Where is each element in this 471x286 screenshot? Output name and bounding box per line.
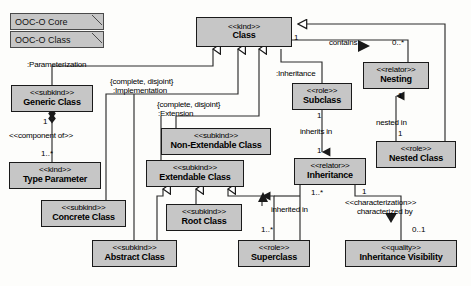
class-name: Inheritance Visibility [360,253,443,263]
label-extension: :Extension [158,109,193,118]
class-box-concrete-class[interactable]: <<subkind>> Concrete Class [41,200,126,227]
multiplicity-subclass: 1 [317,111,321,120]
multiplicity-inheritance-sub: 1 [317,146,321,155]
class-name: Extendable Class [159,173,230,183]
class-box-subclass[interactable]: <<role>> Subclass [292,83,352,110]
package-ooco-class: OOC-O Class [10,31,104,48]
class-box-nested-class[interactable]: <<role>> Nested Class [376,141,456,168]
class-name: Nesting [380,75,412,85]
class-box-type-parameter[interactable]: <<kind>> Type Parameter [9,162,101,189]
class-name: Type Parameter [23,175,87,185]
class-box-inheritance-visibility[interactable]: <<quality>> Inheritance Visibility [345,240,457,267]
class-name: Concrete Class [52,213,115,223]
uml-class-diagram: OOC-O Core OOC-O Class <<kind>> Class <<… [0,0,471,286]
label-parameterization: :Parameterization [27,60,86,69]
class-box-root-class[interactable]: <<subkind>> Root Class [166,204,242,231]
label-impl-constraint: {complete, disjoint} [110,77,173,86]
multiplicity-inheritance-super: 1..* [311,188,323,197]
class-box-inheritance[interactable]: <<relator>> Inheritance [294,158,366,185]
multiplicity-generic-composite: 1 [43,117,47,126]
multiplicity-superclass: 1..* [261,225,273,234]
class-name: Generic Class [23,98,80,108]
label-inherits-in: inherits in [300,127,332,136]
class-box-generic-class[interactable]: <<subkind>> Generic Class [11,85,93,112]
label-inheritance-assoc: :Inheritance [276,69,315,78]
contains-arrowhead [358,40,370,52]
multiplicity-nesting: 1 [398,91,402,100]
multiplicity-class-contains: 1 [294,33,298,42]
multiplicity-type-param: 1..* [41,149,53,158]
class-name: Root Class [181,217,226,227]
class-box-nesting[interactable]: <<relator>> Nesting [363,62,429,89]
label-implementation: :Implementation [113,86,167,95]
multiplicity-nesting-0star: 0..* [392,38,404,47]
package-label: OOC-O Core [11,17,68,27]
class-box-extendable-class[interactable]: <<subkind>> Extendable Class [146,160,244,187]
folded-corner-icon [91,14,103,29]
class-name: Superclass [251,253,297,263]
label-characterized-by: characterized by [357,207,413,216]
label-ext-constraint: {complete, disjoint} [157,100,220,109]
multiplicity-inheritance-quality: 1 [362,187,366,196]
class-name: Nested Class [389,154,443,164]
label-characterization: <<characterization>> [345,198,416,207]
multiplicity-nested-class: 1 [398,129,402,138]
class-box-class[interactable]: <<kind>> Class [196,17,292,47]
class-name: Class [232,31,255,41]
label-contains: contains [329,38,357,47]
edge-abstract-to-extendable [157,189,163,240]
class-name: Inheritance [307,171,353,181]
class-name: Abstract Class [104,253,164,263]
class-box-superclass[interactable]: <<role>> Superclass [238,240,310,267]
label-inherited-in: inherited in [271,205,308,214]
class-box-abstract-class[interactable]: <<subkind>> Abstract Class [92,240,177,267]
multiplicity-visibility: 0..1 [412,225,425,234]
folded-corner-icon [91,32,103,47]
class-name: Non-Extendable Class [170,141,261,151]
label-nested-in: nested in [376,118,407,127]
package-label: OOC-O Class [11,35,71,45]
inherited-in-arrowhead [258,192,268,202]
class-box-non-extendable-class[interactable]: <<subkind>> Non-Extendable Class [161,128,271,155]
class-name: Subclass [303,96,341,106]
label-component-of: <<component of>> [9,131,73,140]
package-ooco-core: OOC-O Core [10,13,104,30]
